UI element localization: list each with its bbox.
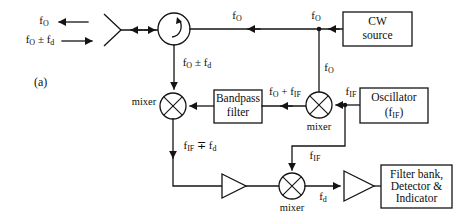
figure-canvas: fO fO ± fd fO fO CW source xyxy=(0,0,474,224)
label-osc-down: fIF xyxy=(310,149,321,163)
label-circ-to-cw: fO xyxy=(232,9,242,23)
mixer-upper-right-symbol[interactable] xyxy=(306,92,332,118)
label-if-doppler: fIF ∓ fd xyxy=(184,139,217,153)
mixer-left-to-amp-wire xyxy=(173,158,222,186)
cw-source-block[interactable]: CW source xyxy=(343,12,412,46)
output-line3: Indicator xyxy=(396,192,438,204)
oscillator-block[interactable]: Oscillator (fIF) xyxy=(360,88,428,123)
radar-block-diagram: fO fO ± fd fO fO CW source xyxy=(0,0,474,224)
cw-source-line2: source xyxy=(362,29,392,41)
oscillator-line1: Oscillator xyxy=(371,91,417,103)
label-transmit-signal: fO xyxy=(39,14,49,28)
output-block[interactable]: Filter bank, Detector & Indicator xyxy=(381,165,452,208)
panel-label: (a) xyxy=(34,75,47,89)
mixer-bottom-symbol[interactable] xyxy=(279,173,305,199)
circulator-symbol xyxy=(158,13,190,45)
antenna-symbol xyxy=(104,14,121,46)
output-line2: Detector & xyxy=(391,180,442,192)
label-cw-down: fO xyxy=(324,61,334,75)
amplifier-left-symbol[interactable] xyxy=(222,174,246,198)
amplifier-right-symbol[interactable] xyxy=(344,171,374,201)
label-mix-sum: fO + fIF xyxy=(269,85,301,99)
label-cw-out: fO xyxy=(311,9,321,23)
mixer-left-symbol[interactable] xyxy=(160,93,186,119)
label-circ-down: fO ± fd xyxy=(183,56,212,70)
bandpass-line2: filter xyxy=(227,106,250,118)
label-receive-signal: fO ± fd xyxy=(26,33,55,47)
label-osc-out: fIF xyxy=(346,85,357,99)
bandpass-line1: Bandpass xyxy=(216,92,261,105)
bandpass-filter-block[interactable]: Bandpass filter xyxy=(214,90,262,123)
mixer-bottom-caption: mixer xyxy=(280,202,305,213)
mixer-left-caption: mixer xyxy=(132,96,157,107)
cw-source-line1: CW xyxy=(368,15,387,27)
mixer-upper-right-caption: mixer xyxy=(307,121,332,132)
label-doppler: fd xyxy=(319,190,327,204)
